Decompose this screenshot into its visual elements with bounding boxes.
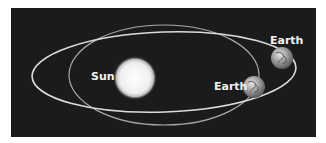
sun-label: Sun xyxy=(91,71,115,82)
orbit-diagram xyxy=(0,0,326,143)
sun-icon xyxy=(113,56,157,100)
earth-upper-icon xyxy=(271,47,293,69)
earth-upper-label: Earth xyxy=(270,35,303,46)
earth-lower-label: Earth xyxy=(214,81,247,92)
outer-orbit-ellipse xyxy=(31,27,298,116)
